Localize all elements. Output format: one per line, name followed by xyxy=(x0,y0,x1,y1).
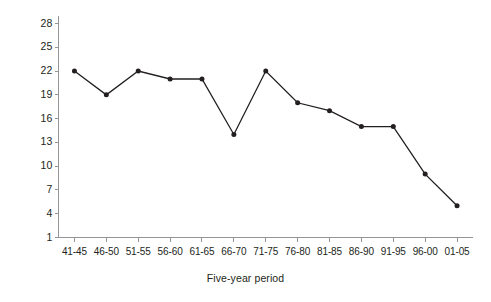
y-tick-label: 10 xyxy=(27,160,53,171)
data-point-marker: 51-55: 22 xyxy=(136,69,141,74)
y-tick-label: 1 xyxy=(27,232,53,243)
y-tick-label: 19 xyxy=(27,89,53,100)
y-tick-label: 22 xyxy=(27,65,53,76)
data-point-marker: 91-95: 15 xyxy=(391,124,396,129)
data-point-marker: 01-05: 5 xyxy=(455,203,460,208)
plot-area: 41-45: 2246-50: 1951-55: 2256-60: 2161-6… xyxy=(0,0,491,302)
x-tick-marks xyxy=(74,238,457,242)
y-tick-marks xyxy=(55,24,59,238)
data-point-marker: 66-70: 14 xyxy=(231,132,236,137)
data-point-marker: 71-75: 22 xyxy=(263,69,268,74)
axis-lines xyxy=(59,16,474,238)
y-tick-label: 7 xyxy=(27,184,53,195)
data-point-marker: 46-50: 19 xyxy=(104,92,109,97)
data-point-marker: 61-65: 21 xyxy=(199,76,204,81)
data-point-marker: 96-00: 9 xyxy=(423,172,428,177)
data-point-marker: 56-60: 21 xyxy=(168,76,173,81)
data-point-marker: 81-85: 17 xyxy=(327,108,332,113)
data-line xyxy=(74,71,457,206)
y-tick-label: 16 xyxy=(27,113,53,124)
data-point-marker: 86-90: 15 xyxy=(359,124,364,129)
y-tick-label: 25 xyxy=(27,41,53,52)
line-chart: April Five-year period 41-45: 2246-50: 1… xyxy=(0,0,491,302)
series-line-april xyxy=(74,71,457,206)
y-tick-label: 28 xyxy=(27,18,53,29)
data-point-marker: 41-45: 22 xyxy=(72,69,77,74)
data-point-marker: 76-80: 18 xyxy=(295,100,300,105)
y-tick-label: 13 xyxy=(27,136,53,147)
y-tick-label: 4 xyxy=(27,208,53,219)
x-tick-label: 01-05 xyxy=(435,246,479,257)
